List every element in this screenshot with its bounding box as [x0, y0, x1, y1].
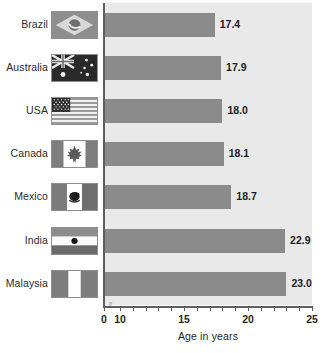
x-axis-tick-label: 25	[306, 313, 318, 325]
bar-brazil	[104, 13, 215, 37]
y-axis-line	[103, 3, 105, 307]
x-axis-tick	[133, 307, 134, 311]
x-axis-tick	[312, 307, 313, 311]
flag-india-icon	[51, 227, 98, 255]
x-axis-tick	[158, 307, 159, 311]
x-axis-tick-label: 15	[178, 313, 190, 325]
bar-chart: Brazil17.4Australia17.9USA18.0Canada18.1…	[0, 0, 330, 353]
x-axis-tick	[274, 307, 275, 311]
country-label-australia: Australia	[0, 61, 48, 73]
flag-australia-icon	[51, 54, 98, 82]
flag-canada-icon	[51, 140, 98, 168]
x-axis-tick	[104, 307, 105, 311]
x-axis-tick-label: 10	[114, 313, 126, 325]
country-label-canada: Canada	[0, 147, 48, 159]
country-label-mexico: Mexico	[0, 190, 48, 202]
x-axis-tick	[197, 307, 198, 311]
x-axis-tick-label: 0	[101, 313, 107, 325]
x-axis-tick-label: 20	[242, 313, 254, 325]
flag-usa-icon	[51, 97, 98, 125]
country-label-india: India	[0, 234, 48, 246]
bar-value-usa: 18.0	[227, 104, 247, 116]
x-axis-title: Age in years	[104, 330, 312, 342]
country-label-usa: USA	[0, 104, 48, 116]
axis-break-icon: //	[108, 301, 116, 310]
x-axis-tick	[120, 307, 121, 311]
x-axis-tick	[299, 307, 300, 311]
country-label-malaysia: Malaysia	[0, 277, 48, 289]
flag-malaysia-icon	[51, 270, 98, 298]
flag-brazil-icon	[51, 11, 98, 39]
bar-usa	[104, 99, 222, 123]
bar-value-brazil: 17.4	[220, 18, 240, 30]
bar-value-malaysia: 23.0	[291, 277, 311, 289]
bar-india	[104, 229, 285, 253]
x-axis-tick	[210, 307, 211, 311]
bar-mexico	[104, 185, 231, 209]
bar-value-australia: 17.9	[226, 61, 246, 73]
bar-value-mexico: 18.7	[236, 190, 256, 202]
x-axis-tick	[184, 307, 185, 311]
country-label-brazil: Brazil	[0, 18, 48, 30]
x-axis-tick	[146, 307, 147, 311]
bar-malaysia	[104, 272, 286, 296]
x-axis-tick	[235, 307, 236, 311]
flag-mexico-icon	[51, 183, 98, 211]
bar-australia	[104, 56, 221, 80]
bar-value-india: 22.9	[290, 234, 310, 246]
x-axis-line	[103, 306, 313, 308]
x-axis-tick	[261, 307, 262, 311]
x-axis-tick	[171, 307, 172, 311]
bar-canada	[104, 142, 224, 166]
x-axis-tick	[222, 307, 223, 311]
x-axis-tick	[286, 307, 287, 311]
bar-value-canada: 18.1	[229, 147, 249, 159]
x-axis-tick	[248, 307, 249, 311]
